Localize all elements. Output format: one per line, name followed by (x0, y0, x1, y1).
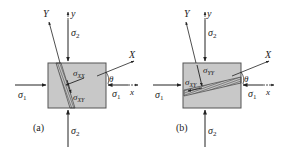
axis-Y-label: Y (184, 8, 191, 19)
axis-Y-line (49, 22, 60, 63)
theta-label: θ (109, 74, 114, 84)
panel-b: Y y σ2 σ2 σ1 σ1 x X θ σYY σXY (b) (153, 8, 274, 147)
stress-element-diagram: Y y σ2 σ2 σ1 σ1 x X θ σXX σXY (a) (0, 0, 286, 152)
sigma2-bottom-label: σ2 (71, 125, 80, 138)
axis-X-label: X (128, 49, 136, 60)
theta-label: θ (244, 74, 249, 84)
sigma1-left-label: σ1 (155, 89, 164, 102)
axis-x-label: x (265, 87, 270, 97)
axis-x-label: x (129, 87, 134, 97)
sigma2-top-label: σ2 (71, 27, 80, 40)
caption-a: (a) (33, 122, 44, 134)
sigma2-top-label: σ2 (208, 27, 217, 40)
sigma2-bottom-label: σ2 (208, 125, 217, 138)
axis-y-label: y (206, 8, 212, 19)
sigma1-right-label: σ1 (248, 88, 257, 101)
sigma1-left-label: σ1 (18, 89, 27, 102)
caption-b: (b) (176, 122, 188, 134)
axis-Y-label: Y (43, 8, 50, 19)
axis-Y-line (186, 22, 196, 63)
sigma1-right-label: σ1 (112, 88, 121, 101)
axis-y-label: y (70, 8, 76, 19)
panel-a: Y y σ2 σ2 σ1 σ1 x X θ σXX σXY (a) (15, 8, 138, 147)
axis-X-label: X (264, 49, 272, 60)
